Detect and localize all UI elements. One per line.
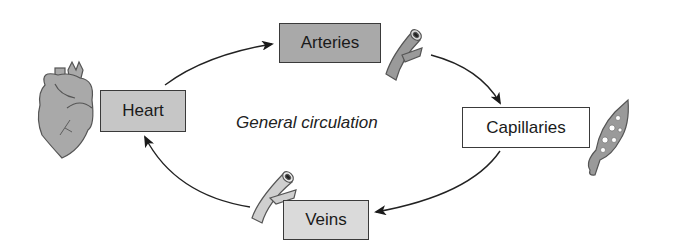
arrow-veins-to-heart: [145, 137, 250, 207]
node-capillaries: Capillaries: [462, 107, 590, 148]
node-heart-label: Heart: [122, 101, 164, 121]
node-arteries: Arteries: [279, 23, 381, 63]
node-veins-label: Veins: [305, 210, 347, 230]
arrow-capillaries-to-veins: [376, 151, 500, 212]
node-arteries-label: Arteries: [301, 33, 360, 53]
diagram-title: General circulation: [236, 113, 378, 133]
artery-vessel-icon: [386, 28, 423, 80]
node-veins: Veins: [283, 200, 369, 240]
node-heart: Heart: [100, 90, 186, 132]
arrow-heart-to-arteries: [165, 44, 272, 85]
heart-organ-icon: [38, 62, 93, 158]
node-capillaries-label: Capillaries: [486, 118, 565, 138]
capillary-bed-icon: [588, 100, 628, 175]
arrow-arteries-to-capillaries: [431, 55, 500, 103]
